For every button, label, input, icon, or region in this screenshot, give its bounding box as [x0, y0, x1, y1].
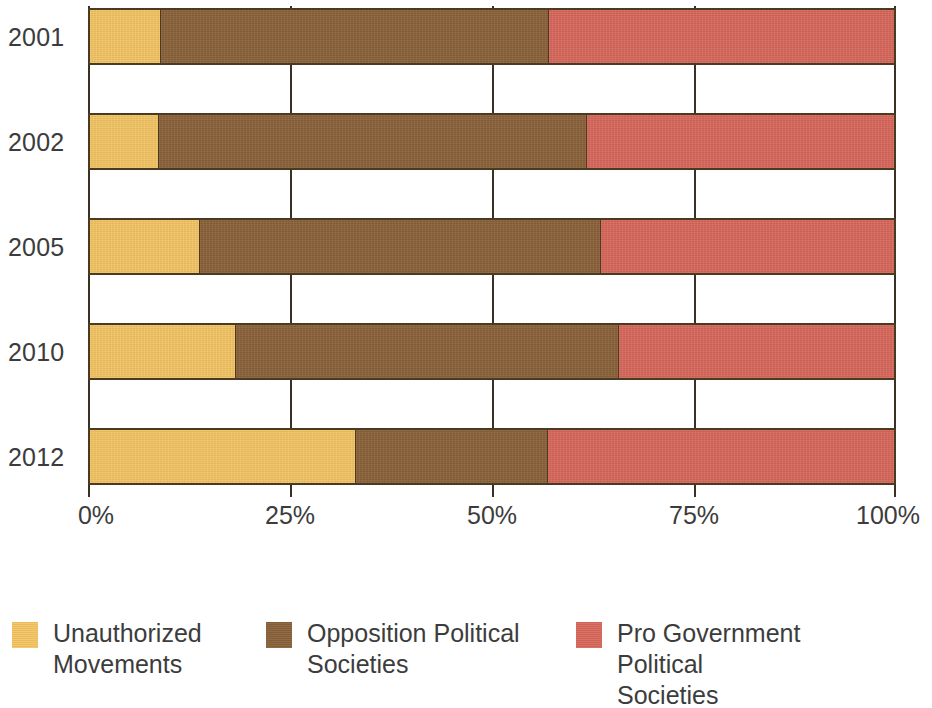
bar-segment-2010-series-0 [90, 325, 235, 378]
year-label-2005: 2005 [8, 235, 78, 260]
bar-segment-2005-series-0 [90, 220, 199, 273]
bar-segment-2012-series-2 [547, 430, 894, 483]
bar-segment-2005-series-1 [199, 220, 600, 273]
bar-segment-2012-series-0 [90, 430, 355, 483]
legend-label-1: Opposition Political Societies [307, 618, 520, 680]
bar-segment-2005-series-2 [600, 220, 894, 273]
bar-row-2001 [88, 8, 896, 65]
year-label-2010: 2010 [8, 340, 78, 365]
bar-segment-2002-series-1 [158, 115, 586, 168]
legend-swatch-unauthorized-movements [12, 622, 38, 648]
bar-row-2010 [88, 323, 896, 380]
x-tick-label-75pct: 75% [669, 501, 719, 529]
bar-row-2002 [88, 113, 896, 170]
bar-row-2005 [88, 218, 896, 275]
bar-segment-2012-series-1 [355, 430, 547, 483]
legend-item-2[interactable]: Pro Government Political Societies [576, 618, 877, 708]
bar-segment-2001-series-2 [548, 10, 894, 63]
year-label-2012: 2012 [8, 445, 78, 470]
year-label-2001: 2001 [8, 25, 78, 50]
bar-segment-2001-series-1 [160, 10, 548, 63]
bar-row-2012 [88, 428, 896, 485]
legend-swatch-pro-government-political-societies [576, 622, 602, 648]
bar-segment-2010-series-2 [618, 325, 894, 378]
x-tick-label-100pct: 100% [856, 501, 920, 529]
legend-label-0: Unauthorized Movements [53, 618, 202, 680]
bar-segment-2002-series-2 [586, 115, 894, 168]
plot-area [88, 6, 896, 497]
legend-item-0[interactable]: Unauthorized Movements [12, 618, 202, 680]
x-tick-label-0pct: 0% [78, 501, 114, 529]
bar-segment-2010-series-1 [235, 325, 619, 378]
x-tick-label-50pct: 50% [467, 501, 517, 529]
bar-segment-2001-series-0 [90, 10, 160, 63]
legend-label-2: Pro Government Political Societies [617, 618, 877, 708]
chart-legend: Unauthorized MovementsOpposition Politic… [0, 618, 932, 682]
legend-item-1[interactable]: Opposition Political Societies [266, 618, 520, 680]
legend-swatch-opposition-political-societies [266, 622, 292, 648]
x-tick-label-25pct: 25% [265, 501, 315, 529]
year-label-2002: 2002 [8, 130, 78, 155]
bar-segment-2002-series-0 [90, 115, 158, 168]
